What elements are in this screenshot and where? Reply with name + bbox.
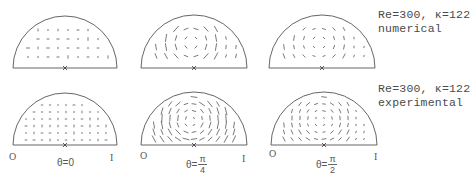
inner-wall-label-3: I: [374, 151, 377, 163]
numerical-kind-caption: numerical: [378, 23, 442, 35]
experimental-kind-caption: experimental: [378, 97, 463, 109]
semicircle-panel-exp-theta-pi4: [141, 92, 247, 147]
inner-wall-label-1: I: [110, 152, 113, 164]
semicircle-panel-num-theta-pi2: [269, 15, 375, 70]
numerical-params-caption: Re=300, κ=122: [378, 9, 470, 21]
theta-label-0: θ=0: [57, 157, 74, 169]
outer-wall-label-3: O: [269, 148, 276, 160]
fraction: π2: [328, 155, 336, 175]
inner-wall-label-2: I: [242, 153, 245, 165]
experimental-params-caption: Re=300, κ=122: [378, 83, 470, 95]
semicircle-panel-num-theta-pi4: [141, 15, 247, 70]
theta-label-pi-2: θ=π2: [316, 155, 337, 175]
semicircle-panel-exp-theta0: [13, 93, 117, 147]
outer-wall-label-1: O: [9, 151, 16, 163]
semicircle-panel-num-theta0: [13, 16, 117, 70]
semicircle-panel-exp-theta-pi2: [271, 92, 377, 147]
fraction: π4: [198, 155, 206, 175]
outer-wall-label-2: O: [140, 150, 147, 162]
theta-label-pi-4: θ=π4: [186, 155, 207, 175]
